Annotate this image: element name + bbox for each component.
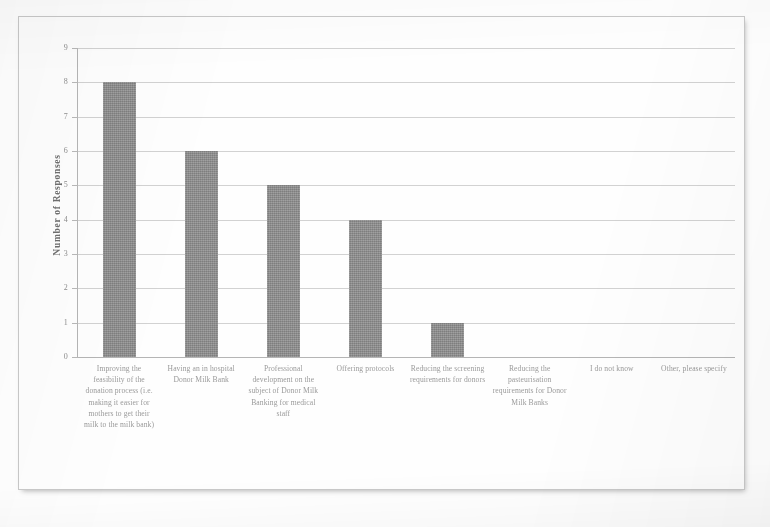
x-axis-category-label: Offering protocols — [327, 363, 403, 374]
gridline — [78, 82, 735, 83]
y-axis-tick-label: 0 — [44, 353, 68, 361]
plot-area — [78, 48, 735, 357]
y-axis-tick-label: 4 — [44, 216, 68, 224]
gridline — [78, 357, 735, 358]
y-axis-tick-label: 5 — [44, 181, 68, 189]
bar — [103, 82, 136, 357]
scanned-page: Number of Responses 0123456789 Improving… — [0, 0, 770, 527]
bar-chart: Number of Responses 0123456789 Improving… — [0, 0, 770, 527]
bar — [431, 323, 464, 357]
x-axis-category-label: Reducing the screening requirements for … — [410, 363, 486, 385]
x-axis-category-label: Improving the feasibility of the donatio… — [81, 363, 157, 430]
x-axis-category-label: Reducing the pasteurisation requirements… — [492, 363, 568, 408]
x-axis-category-label: Professional development on the subject … — [245, 363, 321, 419]
gridline — [78, 117, 735, 118]
gridline — [78, 323, 735, 324]
y-axis-tick-label: 3 — [44, 250, 68, 258]
gridline — [78, 185, 735, 186]
gridline — [78, 48, 735, 49]
y-axis-tick-label: 6 — [44, 147, 68, 155]
x-axis-category-label: I do not know — [574, 363, 650, 374]
gridline — [78, 151, 735, 152]
y-axis-tick-label: 8 — [44, 78, 68, 86]
y-axis-tick-label: 1 — [44, 319, 68, 327]
y-axis-tick-label: 2 — [44, 284, 68, 292]
gridline — [78, 288, 735, 289]
y-axis-tick-label: 7 — [44, 113, 68, 121]
bar — [349, 220, 382, 357]
bar — [185, 151, 218, 357]
x-axis-category-label: Having an in hospital Donor Milk Bank — [163, 363, 239, 385]
y-axis-tick-label: 9 — [44, 44, 68, 52]
gridline — [78, 220, 735, 221]
x-axis-category-labels: Improving the feasibility of the donatio… — [78, 363, 735, 483]
y-axis-tick-labels: 0123456789 — [40, 0, 68, 527]
bar — [267, 185, 300, 357]
x-axis-category-label: Other, please specify — [656, 363, 732, 374]
gridline — [78, 254, 735, 255]
